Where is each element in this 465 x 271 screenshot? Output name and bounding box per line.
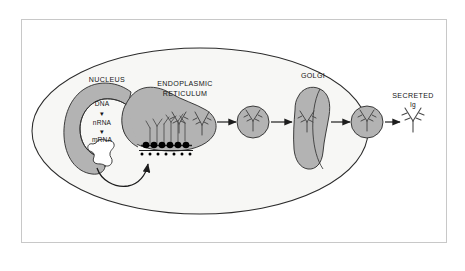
transcription-arrow-2: ▼ <box>99 128 105 135</box>
secreted-antibody <box>402 108 424 132</box>
label-golgi: GOLGI <box>301 72 325 80</box>
label-nrna: nRNA <box>93 119 112 126</box>
label-nucleus: NUCLEUS <box>89 76 125 84</box>
label-er-line1: ENDOPLASMIC <box>157 80 213 88</box>
label-er-line2: RETICULUM <box>163 90 208 98</box>
label-dna: DNA <box>95 100 110 107</box>
label-mrna: mRNA <box>92 136 113 143</box>
figure-root: NUCLEUS ENDOPLASMIC RETICULUM GOLGI SECR… <box>0 0 465 271</box>
cell-diagram: NUCLEUS ENDOPLASMIC RETICULUM GOLGI SECR… <box>0 0 465 271</box>
label-secreted-line2: Ig <box>410 101 416 109</box>
label-secreted-line1: SECRETED <box>392 92 433 100</box>
transcription-arrow-1: ▼ <box>99 110 105 117</box>
